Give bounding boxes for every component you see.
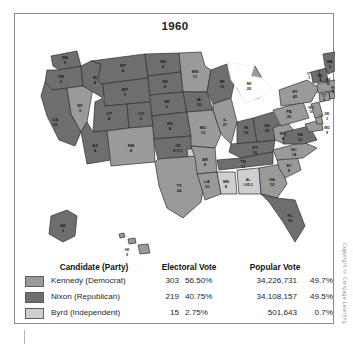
svg-text:I-6/D-5: I-6/D-5 xyxy=(243,183,253,187)
popular-percent: 0.7% xyxy=(303,308,333,317)
electoral-percent: 56.50% xyxy=(185,276,225,285)
svg-text:3: 3 xyxy=(308,76,310,80)
electoral-votes: 15 xyxy=(153,308,179,317)
svg-text:3: 3 xyxy=(326,117,328,121)
svg-text:3: 3 xyxy=(126,252,129,257)
svg-text:32: 32 xyxy=(53,122,58,127)
state-HI-2[interactable] xyxy=(128,238,136,244)
svg-text:12: 12 xyxy=(298,137,303,142)
electoral-votes: 219 xyxy=(153,292,179,301)
svg-text:10: 10 xyxy=(205,184,210,189)
electoral-percent: 2.75% xyxy=(185,308,225,317)
svg-text:27: 27 xyxy=(223,122,228,127)
popular-votes: 501,643 xyxy=(233,308,297,317)
popular-votes: 34,226,731 xyxy=(233,276,297,285)
svg-text:12: 12 xyxy=(220,84,225,89)
svg-text:11: 11 xyxy=(241,164,246,169)
popular-votes: 34,108,157 xyxy=(233,292,297,301)
legend-row: Byrd (Independent) 15 2.75% 501,643 0.7% xyxy=(15,308,335,322)
election-map-figure: 1960 xyxy=(0,0,353,345)
svg-text:25: 25 xyxy=(265,128,270,133)
svg-text:4: 4 xyxy=(319,78,321,82)
candidate-name: Nixon (Republican) xyxy=(51,292,120,301)
svg-text:16: 16 xyxy=(309,110,313,114)
svg-text:14: 14 xyxy=(292,152,297,157)
state-HI-1[interactable] xyxy=(119,233,125,238)
candidate-name: Kennedy (Democrat) xyxy=(51,276,126,285)
legend-header-candidate: Candidate (Party) xyxy=(39,262,149,272)
candidate-name: Byrd (Independent) xyxy=(51,308,120,317)
state-NJ[interactable] xyxy=(311,102,323,118)
svg-text:MD: MD xyxy=(324,126,330,130)
map-svg: WA9 OR6 CA32 NV3 ID4 MT4 WY3 UT4 AZ4 CO6… xyxy=(15,36,335,261)
us-electoral-map: WA9 OR6 CA32 NV3 ID4 MT4 WY3 UT4 AZ4 CO6… xyxy=(15,36,335,261)
figure-frame: 1960 xyxy=(14,13,334,324)
electoral-votes: 303 xyxy=(153,276,179,285)
svg-text:24: 24 xyxy=(177,188,182,193)
svg-text:32: 32 xyxy=(287,114,292,119)
swatch-republican xyxy=(25,292,44,303)
svg-text:10: 10 xyxy=(197,102,202,107)
svg-text:45: 45 xyxy=(293,94,298,99)
legend-header-popular: Popular Vote xyxy=(237,262,313,272)
svg-text:10: 10 xyxy=(253,150,258,155)
copyright-notice: Copyright © Cengage Learning xyxy=(336,243,348,339)
swatch-democrat xyxy=(25,276,44,287)
svg-text:13: 13 xyxy=(244,130,249,135)
svg-text:13: 13 xyxy=(201,130,206,135)
page-title: 1960 xyxy=(15,20,335,32)
popular-percent: 49.5% xyxy=(303,292,333,301)
state-NY[interactable] xyxy=(279,80,319,106)
crop-tick-mark xyxy=(24,330,25,344)
svg-text:R-7/I-1: R-7/I-1 xyxy=(173,149,183,153)
svg-text:9: 9 xyxy=(326,131,328,135)
state-HI-3[interactable] xyxy=(138,244,150,254)
legend-row: Nixon (Republican) 219 40.75% 34,108,157… xyxy=(15,292,335,306)
svg-text:20: 20 xyxy=(247,86,252,91)
svg-text:12: 12 xyxy=(270,182,275,187)
state-FL[interactable] xyxy=(261,194,305,242)
svg-text:16: 16 xyxy=(326,82,330,86)
popular-percent: 49.7% xyxy=(303,276,333,285)
electoral-percent: 40.75% xyxy=(185,292,225,301)
svg-text:11: 11 xyxy=(193,74,198,79)
legend-row: Kennedy (Democrat) 303 56.50% 34,226,731… xyxy=(15,276,335,290)
svg-text:DE: DE xyxy=(325,112,331,116)
svg-text:OK: OK xyxy=(175,144,181,148)
swatch-independent xyxy=(25,308,44,319)
svg-text:10: 10 xyxy=(288,218,293,223)
svg-text:8: 8 xyxy=(323,98,325,102)
legend: Candidate (Party) Electoral Vote Popular… xyxy=(15,262,335,324)
legend-header-electoral: Electoral Vote xyxy=(153,262,225,272)
